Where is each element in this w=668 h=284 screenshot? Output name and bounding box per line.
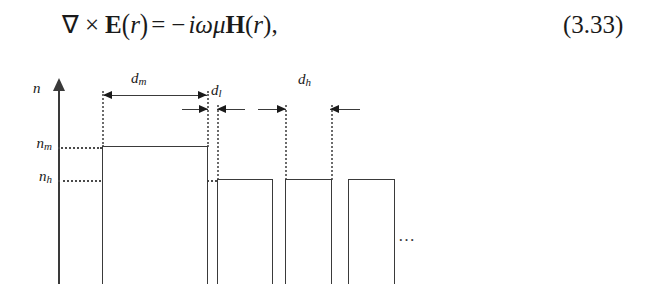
pulse-nh-2	[285, 179, 332, 284]
equation-comma: ,	[271, 11, 277, 38]
lhs-position-variable: r	[130, 11, 140, 38]
refractive-index-profile-figure: n nm nh dm dl dh …	[0, 58, 668, 284]
dimension-label-dh-sub: h	[306, 76, 312, 88]
omega-symbol: ω	[195, 11, 213, 38]
lhs-open-paren: (	[122, 5, 130, 45]
level-guide-nm	[58, 147, 102, 149]
dimension-label-dh: dh	[298, 71, 311, 88]
vertical-guide-pulse1-right	[207, 91, 209, 147]
dimension-label-dm: dm	[131, 70, 146, 87]
equation-expression: ∇×E(r)=−iωμH(r),	[62, 8, 278, 42]
magnetic-field-symbol: H	[226, 11, 245, 38]
y-axis	[58, 88, 60, 284]
dimension-label-dm-sub: m	[139, 75, 147, 87]
dimension-line-dm	[103, 95, 207, 96]
nabla-operator: ∇	[62, 11, 79, 38]
continuation-ellipsis: …	[398, 226, 417, 246]
tick-label-nm-sub: m	[44, 140, 52, 152]
vertical-guide-pulse1-left	[102, 91, 104, 147]
tick-label-nh-base: n	[39, 168, 47, 184]
cross-product-operator: ×	[85, 11, 99, 38]
tick-label-nh: nh	[4, 168, 52, 185]
minus-sign: −	[171, 11, 185, 38]
dimension-label-dl-sub: l	[219, 87, 222, 99]
y-axis-label: n	[33, 80, 41, 97]
pulse-nh-3	[348, 179, 395, 284]
vertical-guide-pulse3-right	[331, 105, 333, 180]
tick-label-nh-sub: h	[47, 173, 53, 185]
pulse-nh-1	[217, 179, 273, 284]
electric-field-symbol: E	[105, 11, 122, 38]
rhs-position-variable: r	[253, 11, 263, 38]
pulse-nm-wide	[102, 146, 208, 284]
equation-number: (3.33)	[563, 8, 623, 42]
mu-symbol: μ	[213, 11, 226, 38]
tick-label-nm: nm	[4, 135, 52, 152]
equals-sign: =	[151, 11, 165, 38]
equation-row: ∇×E(r)=−iωμH(r), (3.33)	[0, 0, 668, 56]
y-axis-arrowhead	[53, 78, 65, 91]
tick-label-nm-base: n	[37, 135, 45, 151]
dimension-label-dm-base: d	[131, 70, 139, 86]
vertical-guide-pulse2-left	[217, 105, 219, 180]
vertical-guide-pulse3-left	[285, 105, 287, 180]
dimension-label-dl-base: d	[211, 82, 219, 98]
dimension-label-dl: dl	[211, 82, 222, 99]
dimension-label-dh-base: d	[298, 71, 306, 87]
lhs-close-paren: )	[140, 5, 148, 45]
dimension-arrow-dm-right	[198, 91, 207, 99]
dimension-arrow-dm-left	[103, 91, 112, 99]
